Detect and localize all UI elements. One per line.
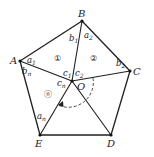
angle-an: an — [37, 111, 46, 122]
point-D — [109, 133, 112, 136]
angle-cn: cn — [57, 78, 66, 89]
point-C — [128, 69, 131, 72]
point-B — [80, 19, 83, 22]
region-2-label: ② — [90, 54, 97, 63]
point-A — [18, 59, 21, 62]
angle-labels: a1 b1 a2 b2 c1 c2 cn bn an — [22, 30, 125, 122]
label-E: E — [34, 138, 43, 149]
label-D: D — [106, 138, 115, 149]
angle-b1: b1 — [69, 33, 78, 44]
label-A: A — [9, 55, 17, 66]
point-O — [70, 79, 73, 82]
region-1-label: ① — [54, 54, 61, 63]
label-O: O — [77, 81, 85, 92]
angle-b2: b2 — [116, 58, 125, 69]
angle-c1: c1 — [63, 68, 72, 79]
region-n-label: ⓝ — [44, 90, 52, 99]
angle-a1: a1 — [27, 55, 36, 66]
angle-c2: c2 — [75, 68, 84, 79]
label-C: C — [133, 66, 141, 77]
vertex-labels: A B C D E O — [9, 8, 141, 149]
edge-CD — [111, 71, 130, 135]
point-E — [38, 133, 41, 136]
angle-bn: bn — [22, 66, 31, 77]
label-B: B — [77, 8, 85, 19]
pentagon-triangulation-diagram: A B C D E O ① ② ⓝ a1 b1 a2 b2 c1 c2 cn b… — [0, 0, 154, 157]
